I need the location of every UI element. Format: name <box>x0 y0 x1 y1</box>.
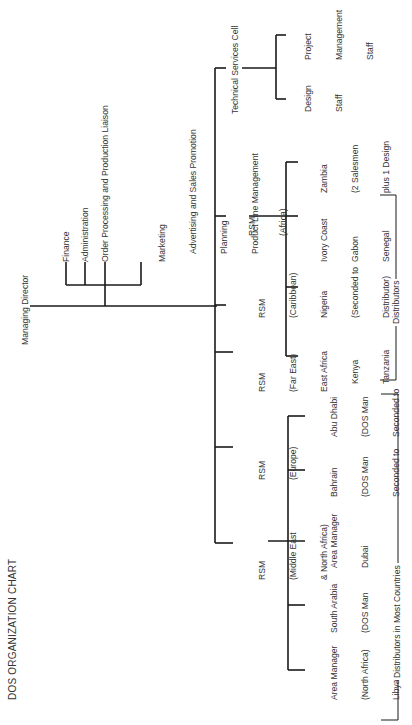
node-nigeria: Nigeria (Seconded to Distributor) <box>298 267 402 318</box>
node-finance: Finance <box>61 231 71 262</box>
node-area-manager-dubai: Area Manager Dubai <box>308 514 381 568</box>
node-rsm-far-east: RSM (Far East) <box>236 354 309 392</box>
marketing-sub-advertising: Advertising and Sales Promotion <box>188 129 198 262</box>
node-abu-dhabi: Abu Dhabi (DOS Man Seconded to Distribut… <box>308 389 412 437</box>
node-rsm-africa: RSM (Africa) <box>226 208 299 236</box>
marketing-sub-product-line: Product Line Management <box>250 129 260 262</box>
node-marketing: Marketing Advertising and Sales Promotio… <box>136 129 271 262</box>
marketing-label: Marketing <box>157 129 167 262</box>
node-technical-services: Technical Services Cell <box>230 26 240 114</box>
node-east-africa: East Africa Kenya Tanzania Malawi Ethiop… <box>298 350 412 392</box>
node-bahrain: Bahrain (DOS Man Seconded to Distributor… <box>308 449 412 497</box>
bracket-label-africa: Distributors <box>391 279 401 326</box>
node-rsm-europe: RSM (Europe) <box>236 447 309 480</box>
bracket-label-middle-east: Distributors in Most Countries <box>392 563 402 680</box>
chart-title: DOS ORGANIZATION CHART <box>8 559 18 700</box>
node-ivory-coast: Ivory Coast Gabon Senegal Cameroons Etc. <box>298 218 412 262</box>
node-zambia: Zambia (2 Salesmen plus 1 Design Staff) <box>298 141 412 193</box>
node-managing-director: Managing Director <box>20 275 30 345</box>
node-administration: Administration <box>80 208 90 262</box>
node-project-management-staff: Project Management Staff <box>282 10 386 60</box>
node-design-staff: Design Staff <box>282 85 355 112</box>
node-order-processing: Order Processing and Production Liaison <box>100 105 110 262</box>
node-rsm-caribbean: RSM (Caribbean) <box>236 273 309 318</box>
marketing-sub-planning: Planning <box>219 129 229 262</box>
